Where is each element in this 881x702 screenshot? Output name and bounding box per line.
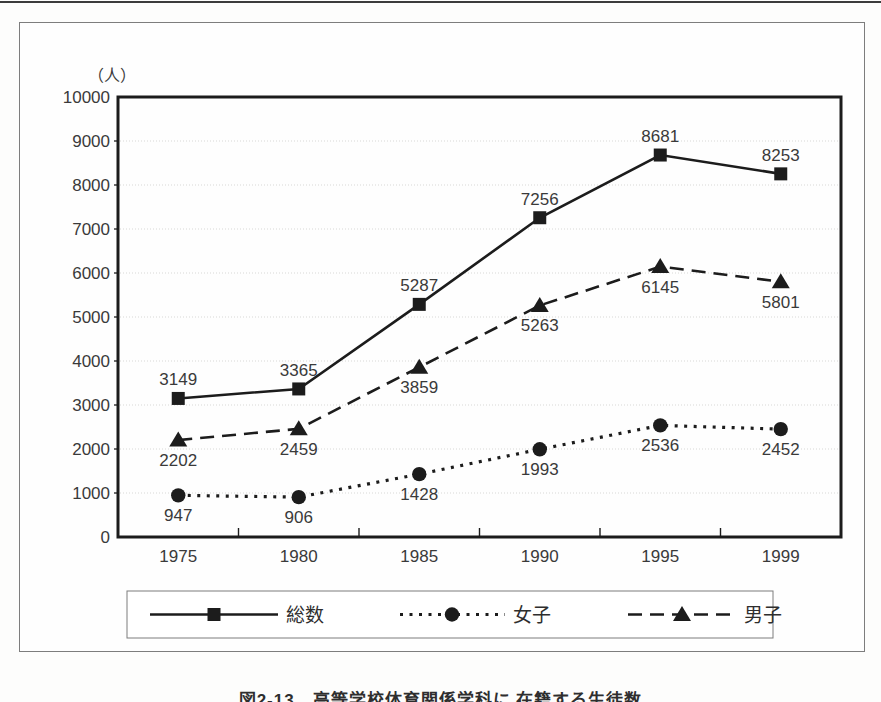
marker-triangle xyxy=(772,273,790,288)
marker-triangle xyxy=(410,359,428,374)
data-label: 7256 xyxy=(521,190,559,209)
data-label: 1993 xyxy=(521,460,559,479)
x-tick-label: 1985 xyxy=(400,547,438,566)
scanned-page: （人）0100020003000400050006000700080009000… xyxy=(0,0,881,702)
data-label: 5287 xyxy=(400,276,438,295)
x-tick-label: 1990 xyxy=(521,547,559,566)
data-label: 8253 xyxy=(762,146,800,165)
y-tick-label: 4000 xyxy=(72,352,110,371)
data-label: 2202 xyxy=(159,451,197,470)
data-label: 8681 xyxy=(641,127,679,146)
marker-triangle xyxy=(290,420,308,435)
data-label: 3365 xyxy=(280,361,318,380)
series-line xyxy=(178,267,781,440)
legend: 総数女子男子 xyxy=(127,591,782,638)
series-1: 9479061428199325362452 xyxy=(164,418,800,527)
figure-caption: 図2-13 高等学校体育関係学科に 在籍する生徒数 xyxy=(0,686,881,702)
y-tick-label: 5000 xyxy=(72,308,110,327)
data-label: 2536 xyxy=(641,436,679,455)
marker-square xyxy=(172,392,185,405)
marker-square xyxy=(654,149,667,162)
y-tick-label: 6000 xyxy=(72,264,110,283)
marker-square xyxy=(292,382,305,395)
data-label: 3859 xyxy=(400,378,438,397)
y-tick-label: 7000 xyxy=(72,220,110,239)
data-label: 2459 xyxy=(280,440,318,459)
series-0: 314933655287725686818253 xyxy=(159,127,799,405)
y-axis: 0100020003000400050006000700080009000100… xyxy=(63,88,118,547)
marker-circle xyxy=(445,607,459,621)
marker-circle xyxy=(774,422,788,436)
marker-circle xyxy=(653,418,667,432)
x-tick-label: 1995 xyxy=(641,547,679,566)
marker-triangle xyxy=(651,258,669,273)
marker-circle xyxy=(412,467,426,481)
y-tick-label: 8000 xyxy=(72,176,110,195)
y-tick-label: 1000 xyxy=(72,484,110,503)
x-axis: 197519801985199019951999 xyxy=(159,528,799,566)
x-tick-label: 1999 xyxy=(762,547,800,566)
marker-square xyxy=(208,608,221,621)
x-tick-label: 1975 xyxy=(159,547,197,566)
data-label: 5801 xyxy=(762,293,800,312)
gridlines xyxy=(120,141,839,493)
series-line xyxy=(178,155,781,398)
y-tick-label: 0 xyxy=(101,528,110,547)
marker-square xyxy=(413,298,426,311)
y-axis-unit-label: （人） xyxy=(88,67,136,84)
y-tick-label: 10000 xyxy=(63,88,110,107)
data-label: 6145 xyxy=(641,278,679,297)
legend-label: 男子 xyxy=(744,605,782,626)
data-label: 5263 xyxy=(521,316,559,335)
legend-label: 女子 xyxy=(513,605,551,626)
data-label: 947 xyxy=(164,506,192,525)
marker-square xyxy=(533,211,546,224)
series-2: 220224593859526361455801 xyxy=(159,258,799,470)
marker-circle xyxy=(533,442,547,456)
y-tick-label: 9000 xyxy=(72,132,110,151)
y-tick-label: 3000 xyxy=(72,396,110,415)
marker-circle xyxy=(171,488,185,502)
marker-circle xyxy=(292,490,306,504)
legend-label: 総数 xyxy=(286,605,324,626)
data-label: 3149 xyxy=(159,370,197,389)
y-tick-label: 2000 xyxy=(72,440,110,459)
data-label: 1428 xyxy=(400,485,438,504)
data-label: 2452 xyxy=(762,440,800,459)
x-tick-label: 1980 xyxy=(280,547,318,566)
data-label: 906 xyxy=(285,508,313,527)
marker-square xyxy=(774,167,787,180)
series-line xyxy=(178,425,781,497)
line-chart: （人）0100020003000400050006000700080009000… xyxy=(0,0,881,702)
